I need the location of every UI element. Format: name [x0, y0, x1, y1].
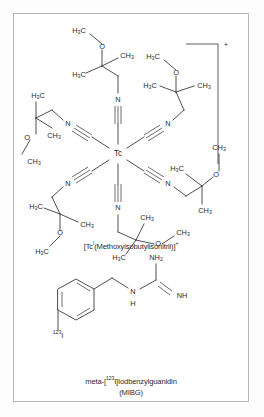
atom-o-upper-left: O	[24, 133, 30, 142]
atom-n-amine: N	[130, 287, 135, 296]
label-ch3-lower-right-top: CH3	[212, 143, 226, 152]
atom-n-top: N	[115, 95, 120, 104]
atom-h-amine: H	[130, 299, 135, 308]
atom-n-lower-right: N	[165, 179, 170, 188]
chemical-structure-canvas: + Tc N	[14, 14, 248, 401]
atom-nh2-guanidine: NH2	[149, 253, 163, 262]
ligand-lower-right	[174, 154, 219, 204]
triple-bond-lower-right	[144, 167, 164, 183]
atom-o-upper-right: O	[173, 68, 179, 77]
triple-bond-lower-left	[72, 167, 92, 183]
atom-iodine: 123I	[53, 329, 64, 340]
label-h3c-bottom: H3C	[112, 253, 126, 262]
mibg-benzene-ring	[58, 279, 94, 320]
charge-plus-label: +	[224, 40, 228, 49]
label-ch3-upper-right: CH3	[197, 81, 211, 90]
atom-n-upper-left: N	[65, 119, 70, 128]
triple-bond-top	[115, 106, 121, 124]
figure-page: + Tc N	[0, 0, 264, 417]
label-ch3-lower-right-bottom: CH3	[198, 206, 212, 215]
triple-bond-upper-left	[72, 125, 92, 141]
caption-tc-mid: (Methoxyisobutylisonitril)]	[94, 242, 175, 251]
label-h3c-upper-left: H3C	[31, 91, 45, 100]
atom-tc: Tc	[114, 149, 122, 158]
mibg-guanidine-bonds	[140, 264, 172, 295]
triple-bond-upper-right	[144, 125, 164, 141]
caption-mibg-line1: meta-[123I]Iodbenzylguanidin	[14, 375, 248, 386]
ligand-upper-left	[22, 102, 63, 154]
label-h3c-lower-right: H3C	[170, 164, 184, 173]
caption-mibg-post: I]Iodbenzylguanidin	[114, 377, 177, 386]
triple-bond-bottom	[115, 184, 121, 202]
label-ch3-upper-left-bottom: CH3	[27, 157, 41, 166]
label-h3c-upper-right: H3C	[146, 52, 160, 61]
label-ch3-bottom-top: CH3	[140, 213, 154, 222]
label-h3c-top: H3C	[72, 26, 86, 35]
label-h3c-upper-right-2: H3C	[143, 81, 157, 90]
atom-o-lower-right: O	[213, 170, 219, 179]
caption-tc-charge: +	[175, 240, 178, 246]
atom-o-lower-left: O	[57, 228, 63, 237]
label-ch3-top-right: CH3	[120, 51, 134, 60]
label-ch3-lower-left: CH3	[80, 220, 94, 229]
label-h3c-lower-left: H3C	[29, 202, 43, 211]
figure-frame: + Tc N	[13, 13, 249, 402]
atom-n-lower-left: N	[65, 179, 70, 188]
mibg-benzyl-chain	[94, 278, 128, 289]
atom-n-bottom: N	[115, 203, 120, 212]
atom-o-top: O	[99, 42, 105, 51]
label-ch3-bottom-right: CH3	[176, 228, 190, 237]
caption-tc-pre: [Tc	[84, 242, 93, 251]
atom-nh-guanidine: NH	[177, 291, 188, 300]
caption-mibg-line2: (MIBG)	[14, 388, 248, 397]
label-h3c-top-left: H3C	[72, 70, 86, 79]
ligand-lower-left	[44, 187, 78, 246]
atom-n-upper-right: N	[165, 119, 170, 128]
caption-mibg-isotope: 123	[106, 375, 114, 381]
caption-tc-complex: [TcI(Methoxyisobutylisonitril)]+	[14, 240, 248, 251]
caption-mibg-pre: meta-[	[85, 377, 106, 386]
label-ch3-upper-left: CH3	[47, 131, 61, 140]
